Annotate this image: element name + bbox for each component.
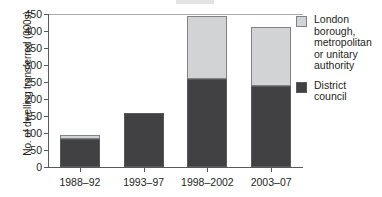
y-tick-label: 150 <box>24 111 42 122</box>
legend-item-london-borough[interactable]: London borough, metropolitan or unitary … <box>296 14 382 72</box>
cropped-title-artifact <box>176 0 214 4</box>
y-axis-line <box>48 14 49 168</box>
x-tick-mark <box>271 168 272 172</box>
y-tick-mark <box>44 82 48 83</box>
y-tick-label: 50 <box>30 145 42 156</box>
plot-area: 450400350300250200150100500 1988–921993–… <box>48 14 303 168</box>
y-tick-mark <box>44 31 48 32</box>
bar-segment-london-borough[interactable] <box>251 27 291 87</box>
x-tick-mark <box>80 168 81 172</box>
y-tick-mark <box>44 99 48 100</box>
dark-gray-swatch <box>296 82 307 93</box>
y-tick-label: 100 <box>24 128 42 139</box>
stacked-bar[interactable] <box>124 113 164 167</box>
bar-segment-district-council[interactable] <box>60 139 100 167</box>
x-tick-label: 1998–2002 <box>181 176 234 188</box>
y-tick-label: 350 <box>24 43 42 54</box>
y-tick-label: 450 <box>24 9 42 20</box>
light-gray-swatch <box>296 16 307 27</box>
bar-segment-district-council[interactable] <box>251 86 291 167</box>
legend-item-district-council[interactable]: District council <box>296 80 382 103</box>
y-tick-mark <box>44 14 48 15</box>
legend-item-label: London borough, metropolitan or unitary … <box>314 14 382 72</box>
stacked-bar[interactable] <box>60 135 100 167</box>
x-tick-mark <box>207 168 208 172</box>
bar-segment-district-council[interactable] <box>187 79 227 167</box>
y-tick-mark <box>44 65 48 66</box>
legend-item-label: District council <box>314 80 382 103</box>
chart-legend: London borough, metropolitan or unitary … <box>296 14 382 111</box>
y-tick-mark <box>44 150 48 151</box>
y-tick-mark <box>44 116 48 117</box>
y-tick-mark <box>44 167 48 168</box>
y-tick-label: 250 <box>24 77 42 88</box>
x-axis-line <box>48 167 303 168</box>
plot-top-border <box>48 14 303 15</box>
bar-segment-london-borough[interactable] <box>187 16 227 80</box>
bar-segment-london-borough[interactable] <box>60 135 100 139</box>
y-tick-label: 300 <box>24 60 42 71</box>
y-tick-mark <box>44 133 48 134</box>
chart-figure: No. of dwelling transferred (000s) 45040… <box>0 0 382 197</box>
x-tick-label: 1988–92 <box>59 176 100 188</box>
y-tick-label: 200 <box>24 94 42 105</box>
stacked-bar[interactable] <box>251 27 291 167</box>
bar-segment-district-council[interactable] <box>124 113 164 167</box>
y-tick-mark <box>44 48 48 49</box>
y-tick-label: 0 <box>36 162 42 173</box>
y-tick-label: 400 <box>24 26 42 37</box>
x-tick-label: 1993–97 <box>123 176 164 188</box>
x-tick-label: 2003–07 <box>251 176 292 188</box>
stacked-bar[interactable] <box>187 16 227 167</box>
x-tick-mark <box>144 168 145 172</box>
